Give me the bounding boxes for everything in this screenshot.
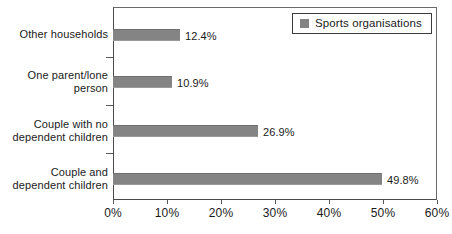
- x-axis-tick: [383, 200, 384, 204]
- x-axis-tick: [221, 200, 222, 204]
- legend-swatch-sports-organisations: [300, 19, 309, 28]
- bar-other-households[interactable]: [113, 29, 180, 41]
- legend-label-sports-organisations: Sports organisations: [315, 17, 422, 30]
- x-axis-tick: [167, 200, 168, 204]
- category-label-line: Couple with no: [0, 118, 108, 131]
- bar-couple-and-dependent-children[interactable]: [113, 173, 382, 185]
- x-axis-tick: [437, 200, 438, 204]
- category-label-couple-and-dependent-children: Couple and dependent children: [0, 166, 108, 192]
- category-label-line: dependent children: [0, 179, 108, 192]
- y-axis-tick: [106, 57, 113, 58]
- x-axis-label-40: 40%: [317, 206, 342, 220]
- x-axis-tick: [275, 200, 276, 204]
- bar-value-couple-and-dependent-children: 49.8%: [387, 174, 419, 186]
- legend: Sports organisations: [292, 13, 432, 34]
- x-axis-label-20: 20%: [209, 206, 234, 220]
- category-label-line: Other households: [0, 28, 108, 41]
- y-axis-tick: [106, 153, 113, 154]
- category-label-line: person: [0, 82, 108, 95]
- bar-value-other-households: 12.4%: [185, 30, 217, 42]
- x-axis-tick: [329, 200, 330, 204]
- category-label-line: Couple and: [0, 166, 108, 179]
- bars-layer: 12.4% 10.9% 26.9% 49.8%: [113, 7, 437, 200]
- bar-chart: Other households One parent/lone person …: [0, 0, 452, 234]
- category-label-line: One parent/lone: [0, 69, 108, 82]
- x-axis-label-30: 30%: [263, 206, 288, 220]
- bar-value-couple-with-no-dependent-children: 26.9%: [263, 126, 295, 138]
- bar-value-one-parent-lone-person: 10.9%: [177, 77, 209, 89]
- category-label-couple-with-no-dependent-children: Couple with no dependent children: [0, 118, 108, 144]
- category-label-other-households: Other households: [0, 28, 108, 41]
- bar-couple-with-no-dependent-children[interactable]: [113, 125, 258, 137]
- x-axis-label-50: 50%: [371, 206, 396, 220]
- category-axis-labels: Other households One parent/lone person …: [0, 7, 108, 200]
- x-axis-label-10: 10%: [155, 206, 180, 220]
- y-axis-tick: [106, 105, 113, 106]
- x-axis-label-0: 0%: [104, 206, 122, 220]
- x-axis-tick: [113, 200, 114, 204]
- bar-one-parent-lone-person[interactable]: [113, 76, 172, 88]
- category-label-line: dependent children: [0, 131, 108, 144]
- x-axis-label-60: 60%: [425, 206, 450, 220]
- category-label-one-parent-lone-person: One parent/lone person: [0, 69, 108, 95]
